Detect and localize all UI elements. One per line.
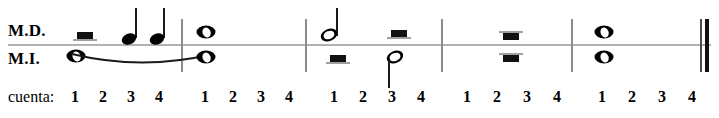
rest-block bbox=[330, 55, 346, 62]
count-m5-beat2: 2 bbox=[628, 88, 636, 106]
whole-note-m5-lower bbox=[595, 51, 614, 64]
rest-baseline bbox=[73, 39, 97, 41]
count-m2-beat2: 2 bbox=[229, 88, 237, 106]
count-m1-beat3: 3 bbox=[127, 88, 135, 106]
right-hand-label: M.D. bbox=[8, 21, 46, 41]
rest-baseline bbox=[387, 37, 411, 39]
whole-note-m5-upper bbox=[595, 26, 614, 39]
count-m5-beat3: 3 bbox=[658, 88, 666, 106]
count-m1-beat1: 1 bbox=[71, 88, 79, 106]
count-m2-beat1: 1 bbox=[201, 88, 209, 106]
count-m2-beat3: 3 bbox=[257, 88, 265, 106]
count-m3-beat4: 4 bbox=[417, 88, 425, 106]
note-stem-m1-b3 bbox=[135, 8, 137, 38]
count-row: cuenta: 1 2 3 4 1 2 3 4 1 2 3 4 1 2 3 4 … bbox=[0, 86, 719, 112]
count-caption: cuenta: bbox=[8, 88, 54, 106]
count-m1-beat4: 4 bbox=[155, 88, 163, 106]
count-m3-beat3: 3 bbox=[388, 88, 396, 106]
rest-block bbox=[77, 32, 93, 39]
rest-block bbox=[503, 33, 519, 40]
count-m5-beat1: 1 bbox=[598, 88, 606, 106]
count-m3-beat2: 2 bbox=[359, 88, 367, 106]
count-m4-beat1: 1 bbox=[463, 88, 471, 106]
final-barline-thick bbox=[705, 19, 709, 72]
rest-block bbox=[503, 55, 519, 62]
music-notation-sheet: M.D. M.I. bbox=[0, 0, 719, 118]
barline-2 bbox=[305, 19, 307, 72]
barline-3 bbox=[441, 19, 443, 72]
rest-block bbox=[391, 30, 407, 37]
whole-note-m2-upper bbox=[197, 26, 216, 39]
count-m2-beat4: 4 bbox=[285, 88, 293, 106]
left-hand-label: M.I. bbox=[8, 49, 40, 69]
note-stem-m1-b4 bbox=[163, 8, 165, 38]
count-m4-beat2: 2 bbox=[493, 88, 501, 106]
count-m1-beat2: 2 bbox=[99, 88, 107, 106]
final-barline-thin bbox=[700, 19, 702, 72]
note-stem-m3-lower-b3 bbox=[388, 60, 390, 88]
barline-4 bbox=[571, 19, 573, 72]
half-note-m3-upper-beat1 bbox=[319, 26, 339, 43]
tie-slur bbox=[70, 52, 215, 68]
count-m4-beat4: 4 bbox=[553, 88, 561, 106]
whole-note-m2-lower bbox=[197, 51, 216, 64]
count-m4-beat3: 3 bbox=[523, 88, 531, 106]
count-m5-beat4: 4 bbox=[688, 88, 696, 106]
rest-baseline bbox=[326, 62, 350, 64]
staff-line bbox=[8, 44, 711, 46]
count-m3-beat1: 1 bbox=[330, 88, 338, 106]
